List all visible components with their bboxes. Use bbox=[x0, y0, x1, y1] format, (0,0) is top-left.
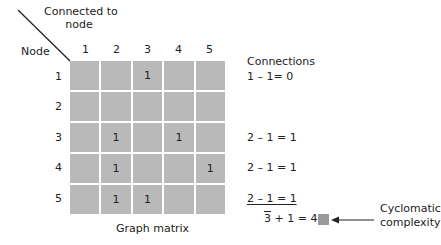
column-header-1: 1 bbox=[70, 43, 101, 56]
connected-to-label: Connected to node bbox=[44, 5, 114, 31]
matrix-cell bbox=[70, 61, 99, 90]
matrix-cell bbox=[196, 61, 225, 90]
row-header-1: 1 bbox=[50, 70, 62, 83]
connections-row-5: 2 – 1 = 1 bbox=[247, 192, 297, 205]
matrix-caption: Graph matrix bbox=[116, 222, 189, 235]
matrix-cell bbox=[70, 92, 99, 121]
matrix-cell: 1 bbox=[133, 61, 162, 90]
connections-header: Connections bbox=[247, 55, 315, 68]
connections-row-1: 1 – 1= 0 bbox=[247, 70, 293, 83]
connections-row-3: 2 – 1 = 1 bbox=[247, 131, 297, 144]
matrix-cell bbox=[70, 123, 99, 152]
column-header-5: 5 bbox=[194, 43, 225, 56]
matrix-cell bbox=[70, 185, 99, 214]
matrix-cell bbox=[164, 92, 193, 121]
matrix-cell bbox=[196, 185, 225, 214]
matrix-cell bbox=[133, 123, 162, 152]
connections-row-4: 2 – 1 = 1 bbox=[247, 161, 297, 174]
matrix-cell: 1 bbox=[196, 154, 225, 183]
arrow-left-icon bbox=[331, 214, 375, 226]
graph-matrix: 1 1 1 1 1 1 1 bbox=[70, 61, 225, 214]
row-header-3: 3 bbox=[50, 131, 62, 144]
row-header-5: 5 bbox=[50, 192, 62, 205]
matrix-cell bbox=[133, 92, 162, 121]
matrix-cell bbox=[196, 92, 225, 121]
row-header-2: 2 bbox=[50, 100, 62, 113]
matrix-cell bbox=[70, 154, 99, 183]
cyclomatic-complexity-label: Cyclomatic complexity bbox=[380, 202, 441, 230]
matrix-cell bbox=[164, 154, 193, 183]
row-header-4: 4 bbox=[50, 161, 62, 174]
matrix-cell: 1 bbox=[101, 185, 130, 214]
matrix-cell: 1 bbox=[101, 154, 130, 183]
column-header-2: 2 bbox=[101, 43, 132, 56]
cyclomatic-complexity-marker bbox=[318, 214, 329, 225]
matrix-cell bbox=[101, 92, 130, 121]
matrix-cell bbox=[164, 61, 193, 90]
matrix-cell: 1 bbox=[133, 185, 162, 214]
matrix-cell: 1 bbox=[101, 123, 130, 152]
node-axis-label: Node bbox=[21, 45, 50, 58]
column-header-4: 4 bbox=[163, 43, 194, 56]
complexity-sum: 3 + 1 = 4 bbox=[264, 212, 317, 225]
matrix-cell bbox=[196, 123, 225, 152]
matrix-cell bbox=[133, 154, 162, 183]
connections-total: 3 bbox=[264, 212, 271, 225]
column-header-3: 3 bbox=[132, 43, 163, 56]
matrix-cell: 1 bbox=[164, 123, 193, 152]
sum-rest: + 1 = 4 bbox=[271, 212, 317, 225]
matrix-cell bbox=[164, 185, 193, 214]
matrix-cell bbox=[101, 61, 130, 90]
